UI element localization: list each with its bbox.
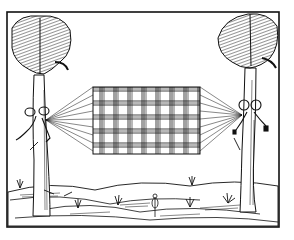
woodcut-illustration [0, 0, 294, 240]
hammock [93, 87, 200, 154]
left-tree-fronds [12, 16, 71, 74]
left-tree-trunk [33, 75, 50, 216]
